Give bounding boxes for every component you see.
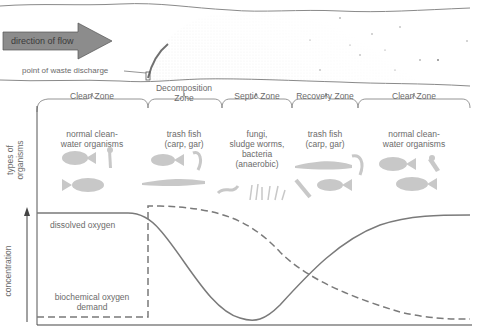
zone-label-clean-2: Clean Zone bbox=[386, 91, 442, 101]
gar-icon bbox=[295, 161, 352, 169]
concentration-label: concentration bbox=[3, 241, 13, 301]
worm-icon bbox=[352, 156, 362, 175]
organisms-decomposition: trash fish (carp, gar) bbox=[150, 129, 218, 149]
organism-text: trash fish bbox=[292, 129, 358, 139]
worm-icon bbox=[193, 152, 200, 170]
discharge-leader-line bbox=[124, 71, 146, 73]
worm-icon bbox=[296, 180, 310, 197]
crayfish-icon bbox=[107, 147, 113, 168]
zone-label-decomposition-line2: Zone bbox=[150, 93, 218, 103]
discharge-point-label: point of waste discharge bbox=[22, 66, 108, 76]
organism-text: trash fish bbox=[150, 129, 218, 139]
gar-icon bbox=[142, 179, 205, 186]
crayfish-icon bbox=[428, 155, 440, 172]
zone-label-septic: Septic Zone bbox=[224, 91, 290, 101]
organism-text: water organisms bbox=[52, 139, 132, 149]
fish-icon bbox=[62, 178, 104, 192]
fish-icon bbox=[396, 177, 437, 191]
organism-text: fungi, bbox=[222, 129, 292, 139]
pollution-plume bbox=[148, 11, 470, 80]
arrow-up-icon bbox=[24, 207, 30, 216]
bod-label-line1: biochemical oxygen bbox=[42, 292, 142, 302]
dissolved-oxygen-label: dissolved oxygen bbox=[50, 220, 115, 230]
fish-icon bbox=[317, 179, 352, 191]
zone-label-decomposition-line1: Decomposition bbox=[150, 83, 218, 93]
axis-label-line: organisms bbox=[15, 135, 25, 185]
organism-text: (anaerobic) bbox=[222, 159, 292, 169]
bod-label-line2: demand bbox=[42, 302, 142, 312]
zone-label-recovery: Recovery Zone bbox=[290, 91, 360, 101]
organisms-clean-1: normal clean- water organisms bbox=[52, 129, 132, 149]
organism-text: (carp, gar) bbox=[150, 139, 218, 149]
organism-text: bacteria bbox=[222, 149, 292, 159]
types-of-organisms-label: types of organisms bbox=[5, 135, 25, 185]
organisms-clean-2: normal clean- water organisms bbox=[372, 129, 456, 149]
zone-label-decomposition: Decomposition Zone bbox=[150, 83, 218, 103]
organisms-septic: fungi, sludge worms, bacteria (anaerobic… bbox=[222, 129, 292, 169]
axis-label-line: types of bbox=[5, 135, 15, 185]
organism-text: water organisms bbox=[372, 139, 456, 149]
flow-direction-label: direction of flow bbox=[11, 36, 74, 46]
fish-icon bbox=[151, 154, 184, 166]
fish-icon bbox=[62, 151, 96, 165]
organisms-recovery: trash fish (carp, gar) bbox=[292, 129, 358, 149]
organism-text: sludge worms, bbox=[222, 139, 292, 149]
fish-icon bbox=[379, 157, 416, 171]
organism-text: normal clean- bbox=[52, 129, 132, 139]
zone-label-clean-1: Clean Zone bbox=[64, 91, 120, 101]
organism-text: normal clean- bbox=[372, 129, 456, 139]
sludge-worms-icon bbox=[218, 184, 285, 200]
river-bank-top bbox=[0, 4, 470, 12]
bod-label: biochemical oxygen demand bbox=[42, 292, 142, 312]
organism-text: (carp, gar) bbox=[292, 139, 358, 149]
